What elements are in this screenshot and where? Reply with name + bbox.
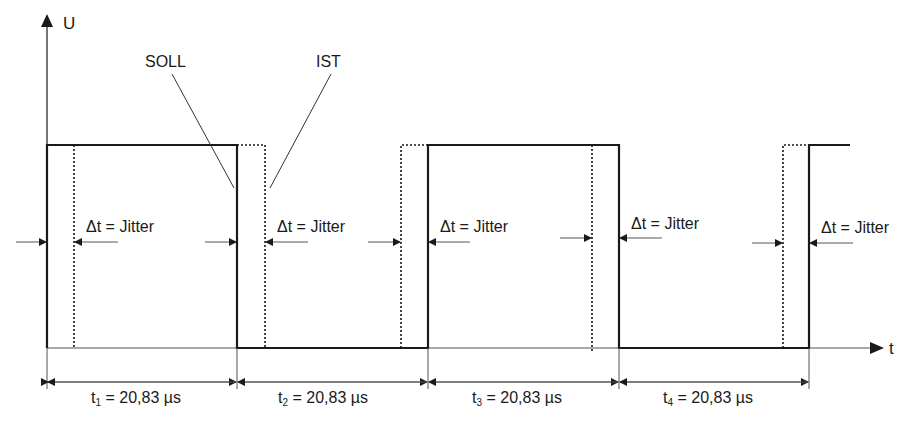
- x-axis-label: t: [889, 340, 894, 357]
- ist-waveform: [74, 145, 809, 352]
- soll-label: SOLL: [145, 54, 186, 70]
- period-label-t4: t4 = 20,83 µs: [663, 390, 753, 408]
- jitter-label: Δt = Jitter: [277, 219, 345, 235]
- jitter-label: Δt = Jitter: [86, 219, 154, 235]
- y-axis-arrow-icon: [41, 14, 53, 27]
- y-axis-label: U: [63, 15, 75, 32]
- callout-lines: [172, 74, 331, 188]
- jitter-label: Δt = Jitter: [440, 219, 508, 235]
- jitter-label: Δt = Jitter: [821, 220, 889, 236]
- jitter-arrows: [16, 238, 853, 243]
- ist-label: IST: [316, 54, 341, 70]
- period-label-t3: t3 = 20,83 µs: [472, 390, 562, 408]
- period-label-t1: t1 = 20,83 µs: [91, 390, 181, 408]
- jitter-label: Δt = Jitter: [631, 216, 699, 232]
- jitter-diagram: [0, 0, 913, 422]
- soll-waveform: [47, 145, 850, 348]
- x-axis-arrow-icon: [870, 342, 884, 354]
- period-label-t2: t2 = 20,83 µs: [278, 390, 368, 408]
- period-dimensions: [47, 348, 809, 389]
